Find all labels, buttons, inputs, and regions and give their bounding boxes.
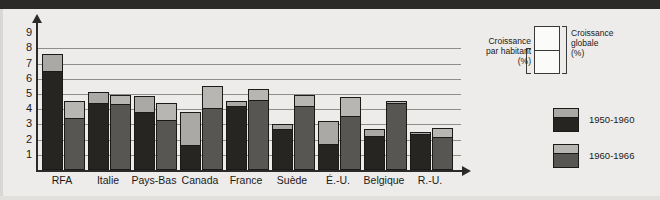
y-tick-label: 9 [10, 27, 32, 38]
y-tick-label: 6 [10, 73, 32, 84]
bar-Belgique-1960-1966 [386, 101, 407, 170]
y-tick-label: 1 [10, 149, 32, 160]
legend-per-capita-line3: (%) [441, 56, 531, 66]
legend-global-line2: globale [571, 38, 651, 48]
bar-Canada-1960-1966 [202, 86, 223, 170]
legend-per-capita-label: Croissance par habitant (%) [441, 36, 531, 66]
y-tick-label: 4 [10, 103, 32, 114]
bar-Canada-1950-1960 [180, 112, 201, 170]
bar-segment-per-capita [341, 116, 360, 169]
bar-segment-per-capita [43, 71, 62, 169]
legend-label: 1960-1966 [589, 150, 634, 161]
bar-segment-global [181, 113, 200, 148]
legend-global-line1: Croissance [571, 28, 651, 38]
legend-sample-divider [535, 50, 559, 51]
chart-page: 987654321 RFAItaliePays-BasCanadaFranceS… [0, 0, 660, 200]
bar-segment-per-capita [89, 103, 108, 169]
bar-segment-per-capita [227, 106, 246, 169]
bar-Italie-1950-1960 [88, 92, 109, 170]
y-tick-label: 8 [10, 42, 32, 53]
scan-band-bottom [0, 196, 660, 200]
bar-segment-per-capita [365, 136, 384, 169]
gridline [36, 79, 461, 80]
bar-R.-U.-1960-1966 [432, 128, 453, 170]
bracket-right-icon [562, 26, 567, 74]
gridline [36, 64, 461, 65]
legend-global-line3: (%) [571, 48, 651, 58]
y-tick-label: 3 [10, 118, 32, 129]
bar-Suède-1960-1966 [294, 95, 315, 170]
bar-Pays-Bas-1950-1960 [134, 96, 155, 170]
bar-segment-per-capita [203, 108, 222, 169]
bar-Belgique-1950-1960 [364, 129, 385, 170]
legend-per-capita-line1: Croissance [441, 36, 531, 46]
y-axis-labels: 987654321 [6, 0, 32, 200]
bar-segment-per-capita [319, 144, 338, 169]
bar-É.-U.-1950-1960 [318, 121, 339, 170]
y-tick-label: 7 [10, 58, 32, 69]
bar-Italie-1960-1966 [110, 95, 131, 170]
legend-bracket: Croissance par habitant (%) Croissance g… [487, 22, 657, 82]
bar-segment-per-capita [249, 100, 268, 169]
bar-segment-per-capita [295, 106, 314, 169]
bar-segment-per-capita [111, 104, 130, 169]
legend-swatch [553, 144, 579, 168]
bar-segment-per-capita [273, 129, 292, 169]
y-axis-line [36, 20, 38, 172]
y-tick-label: 2 [10, 134, 32, 145]
scan-band-top [0, 0, 660, 9]
legend-sample-box [534, 26, 560, 74]
bar-RFA-1950-1960 [42, 54, 63, 170]
bar-RFA-1960-1966 [64, 101, 85, 170]
bar-É.-U.-1960-1966 [340, 97, 361, 170]
legend-global-label: Croissance globale (%) [571, 28, 651, 58]
bar-segment-per-capita [135, 112, 154, 169]
bar-segment-per-capita [433, 137, 452, 169]
gridline [36, 48, 461, 49]
y-tick-label: 5 [10, 88, 32, 99]
y-axis-arrow-icon [32, 14, 42, 23]
bar-segment-per-capita [157, 120, 176, 169]
bar-segment-per-capita [181, 145, 200, 169]
legend-label: 1950-1960 [589, 114, 634, 125]
x-axis-arrow-icon [462, 166, 471, 176]
legend-per-capita-line2: par habitant [441, 46, 531, 56]
x-label-R.-U.: R.-U. [400, 174, 460, 186]
bar-Pays-Bas-1960-1966 [156, 103, 177, 170]
bar-segment-per-capita [411, 134, 430, 169]
bar-segment-per-capita [65, 118, 84, 169]
legend-swatch-bottom [554, 117, 578, 131]
bar-France-1960-1966 [248, 89, 269, 170]
x-axis-line [36, 170, 466, 172]
legend-swatch-bottom [554, 153, 578, 167]
bar-segment-per-capita [387, 103, 406, 169]
bar-France-1950-1960 [226, 101, 247, 170]
scan-edge-left [0, 9, 3, 200]
legend-swatch [553, 108, 579, 132]
bar-R.-U.-1950-1960 [410, 132, 431, 170]
bar-Suède-1950-1960 [272, 124, 293, 170]
